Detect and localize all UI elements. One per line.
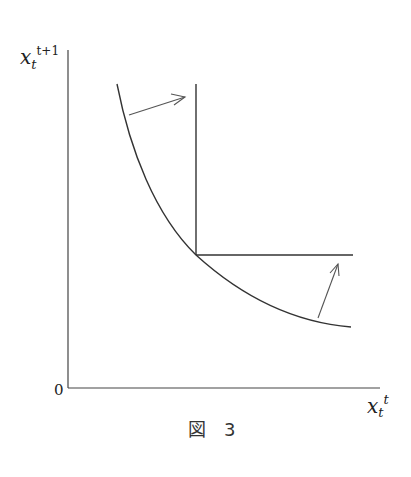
origin-label: 0 [54, 381, 64, 399]
convex-curve [117, 84, 351, 327]
x-axis-label: xtt [367, 392, 390, 420]
y-axis-label: xtt+1 [20, 44, 59, 72]
figure-diagram: xtt+1 0 xtt 図 3 [0, 0, 411, 477]
figure-caption: 図 3 [188, 419, 235, 440]
arrow-lower [318, 264, 339, 318]
arrow-upper [129, 94, 185, 115]
